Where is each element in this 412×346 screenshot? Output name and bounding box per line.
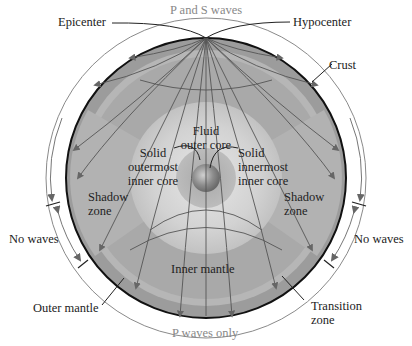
label-no-waves-right: No waves bbox=[354, 232, 404, 246]
label-p-and-s-waves: P and S waves bbox=[170, 3, 242, 17]
label-inner-mantle: Inner mantle bbox=[171, 262, 235, 276]
label-crust: Crust bbox=[329, 58, 356, 72]
label-solid-innermost-inner-core: Solid innermost inner core bbox=[238, 146, 288, 188]
label-shadow-zone-left: Shadow zone bbox=[88, 190, 128, 218]
seismic-diagram: Epicenter P and S waves Hypocenter Crust… bbox=[0, 0, 412, 346]
label-solid-outermost-inner-core: Solid outermost inner core bbox=[122, 146, 184, 188]
label-fluid-outer-core: Fluid outer core bbox=[178, 124, 234, 152]
earth-cross-section bbox=[0, 0, 412, 346]
label-outer-mantle: Outer mantle bbox=[33, 301, 99, 315]
label-shadow-zone-right: Shadow zone bbox=[284, 190, 324, 218]
label-p-waves-only: P waves only bbox=[172, 326, 238, 340]
label-transition-zone: Transition zone bbox=[311, 299, 362, 327]
label-epicenter: Epicenter bbox=[58, 15, 106, 29]
label-hypocenter: Hypocenter bbox=[293, 15, 351, 29]
label-no-waves-left: No waves bbox=[9, 232, 59, 246]
